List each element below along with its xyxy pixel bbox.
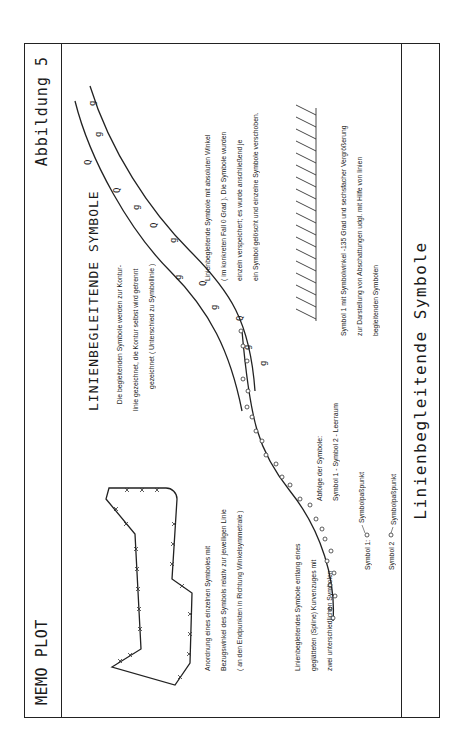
legend-symbol-2-label: Symbol 2 [384,542,400,570]
hatch-caption: Symbol 1 mit Symbolwinkel -135 Grad und … [336,125,384,336]
drawing-sheet: ggQ QgQ ggQ gQgg MEMO PLOT Abbildung 5 L… [0,0,462,751]
legend-symbol-1-point: Symbolpaßpunkt [354,472,370,523]
header-strip: MEMO PLOT Abbildung 5 [25,44,62,717]
sequence-info: Abfolge der Symbole: Symbol 1 - Symbol 2… [312,403,344,501]
intro-text: Die begleitenden Symbole werden zur Kont… [112,264,160,411]
footer-strip: Linienbegleitende Symbole [401,44,439,717]
page-title: LINIENBEGLEITENDE SYMBOLE [86,190,101,411]
legend-symbol-1-label: Symbol 1: [360,540,376,570]
legend-symbol-2-point: Symbolpaßpunkt [386,474,402,525]
memo-plot-label: MEMO PLOT [33,619,51,705]
footer-title: Linienbegleitende Symbole [411,44,430,717]
absolute-angle-caption: Linienbegleitende Symbole mit absoluten … [200,112,264,281]
spline-caption: Linienbegleitendes Symbole entlang eines… [290,544,338,671]
figure-number: Abbildung 5 [33,56,51,166]
polygon-caption: Anordnung eines einzelnen Symboles mit B… [200,509,248,671]
